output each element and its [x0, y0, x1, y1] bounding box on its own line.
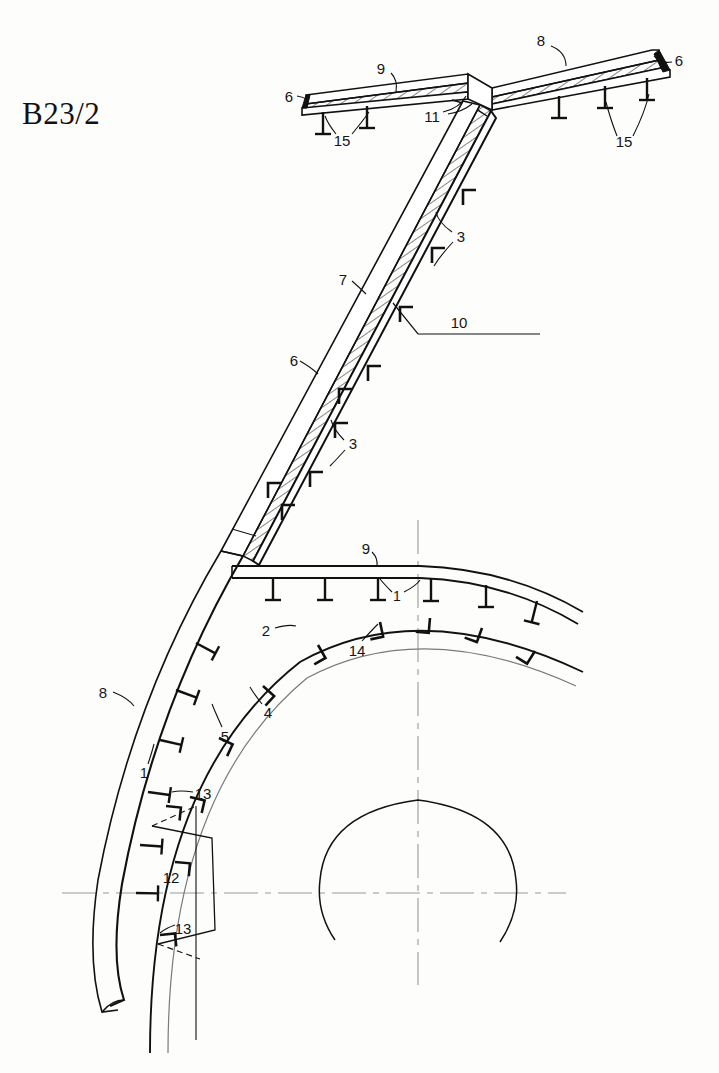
arc-inner-line: [168, 649, 576, 1053]
callout-13-lower: 13: [175, 921, 192, 936]
callout-3-upper: 3: [457, 229, 465, 244]
callout-1-deck: 1: [393, 589, 401, 603]
callout-2: 2: [262, 623, 270, 638]
callout-3-lower: 3: [349, 436, 357, 451]
upper-left-deck-assembly: [302, 74, 468, 115]
outer-shell-plate: [93, 551, 243, 1012]
callout-15-right: 15: [616, 134, 633, 149]
inner-arc-shell: [150, 631, 583, 1053]
technical-drawing-canvas: [0, 0, 719, 1073]
callout-4: 4: [264, 705, 272, 720]
callout-5: 5: [221, 729, 229, 744]
callout-15-left: 15: [334, 133, 351, 148]
centerlines: [62, 520, 566, 985]
callout-6-middle: 6: [290, 353, 298, 368]
callout-1-lower: 1: [140, 766, 148, 780]
callout-13-upper: 13: [195, 786, 212, 801]
callout-8-top: 8: [537, 33, 545, 48]
deck-tee-stiffeners: [265, 578, 545, 624]
main-deck-upper-line: [232, 566, 583, 612]
callout-6-top-right: 6: [675, 53, 683, 68]
strut-inner-edge: [253, 111, 496, 565]
callout-9-top: 9: [377, 61, 385, 76]
callout-6-top-left: 6: [285, 89, 293, 104]
drawing-sheet: B23/2: [0, 0, 719, 1073]
callout-9-deck: 9: [362, 541, 370, 556]
diagonal-strut: [221, 101, 496, 565]
callout-7: 7: [339, 272, 347, 287]
callout-12: 12: [163, 870, 180, 885]
callout-14: 14: [349, 643, 366, 658]
callout-10: 10: [451, 315, 468, 330]
strut-flange-plate: [243, 105, 491, 561]
diagonal-strut-web: [221, 101, 480, 556]
arc-outer-line: [150, 631, 583, 1053]
callout-8-left: 8: [99, 685, 107, 700]
main-deck: [232, 566, 583, 624]
callout-11: 11: [424, 109, 440, 124]
lower-panel-seam: [158, 944, 200, 959]
